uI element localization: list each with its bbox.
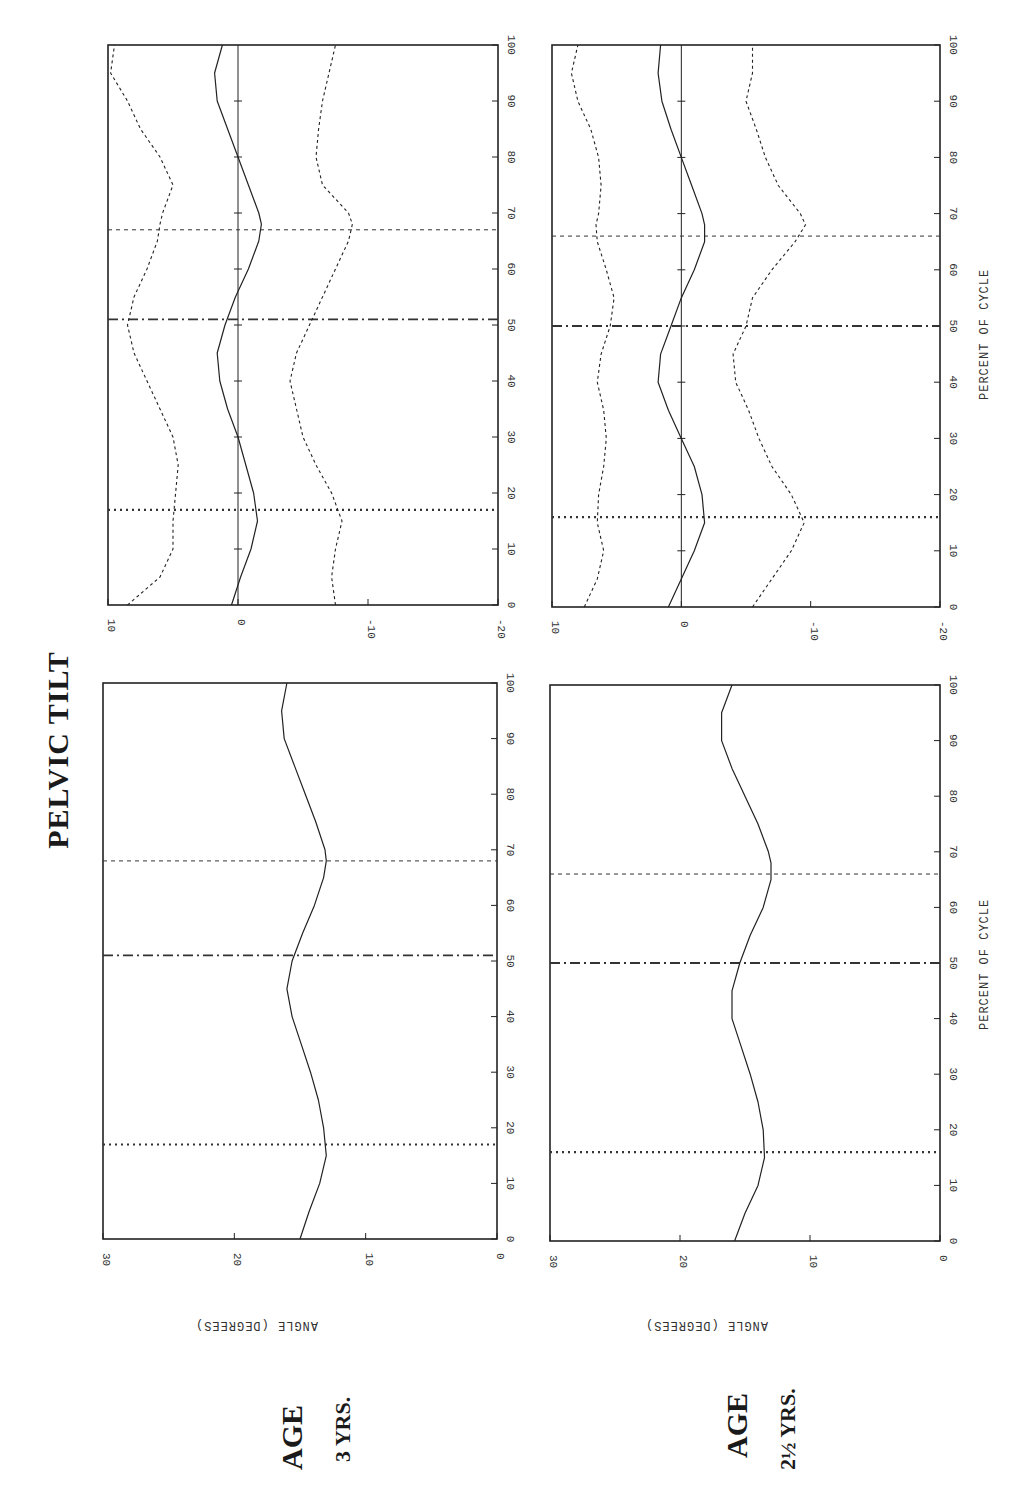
svg-text:40: 40 [947,1012,959,1025]
age-value: 3 YRS. [330,1397,356,1462]
svg-text:20: 20 [504,1121,516,1134]
svg-text:60: 60 [947,901,959,914]
svg-text:20: 20 [677,1255,689,1268]
svg-text:70: 70 [504,843,516,856]
svg-text:60: 60 [505,262,517,275]
y-axis-label-right: ANGLE (DEGREES) [645,1318,768,1332]
svg-text:50: 50 [504,954,516,967]
y-axis-label-left: ANGLE (DEGREES) [195,1318,318,1332]
svg-text:40: 40 [504,1010,516,1023]
svg-text:50: 50 [505,318,517,331]
svg-text:0: 0 [947,604,959,611]
svg-text:30: 30 [947,1068,959,1081]
svg-text:0: 0 [678,621,690,628]
svg-text:0: 0 [504,1236,516,1243]
svg-text:0: 0 [937,1255,949,1262]
svg-text:90: 90 [947,734,959,747]
age-word: AGE [720,1393,754,1458]
svg-text:60: 60 [947,263,959,276]
svg-text:10: 10 [549,621,561,634]
svg-text:50: 50 [947,319,959,332]
chart-age3-deviation: 0102030405060708090100-20-10010 [108,45,498,605]
svg-text:100: 100 [505,35,517,55]
svg-text:10: 10 [504,1177,516,1190]
svg-text:100: 100 [947,675,959,695]
svg-text:30: 30 [505,430,517,443]
svg-text:0: 0 [494,1253,506,1260]
svg-text:40: 40 [505,374,517,387]
svg-text:30: 30 [947,432,959,445]
svg-text:10: 10 [363,1253,375,1266]
svg-text:20: 20 [505,486,517,499]
svg-text:10: 10 [807,1255,819,1268]
svg-text:70: 70 [947,207,959,220]
svg-text:70: 70 [505,206,517,219]
x-axis-label-bottom: PERCENT OF CYCLE [978,899,992,1030]
svg-text:20: 20 [231,1253,243,1266]
svg-text:10: 10 [947,1179,959,1192]
svg-text:10: 10 [505,542,517,555]
age-value: 2½ YRS. [775,1388,801,1470]
svg-text:30: 30 [504,1066,516,1079]
page-title: PELVIC TILT [28,645,88,855]
svg-text:80: 80 [505,150,517,163]
svg-text:30: 30 [547,1255,559,1268]
chart-age3-absolute: 01020304050607080901000102030 [103,683,497,1239]
age-word: AGE [275,1405,309,1470]
svg-text:-10: -10 [808,621,820,641]
svg-text:0: 0 [947,1238,959,1245]
svg-text:0: 0 [235,619,247,626]
x-axis-label-top: PERCENT OF CYCLE [978,269,992,400]
svg-text:90: 90 [505,94,517,107]
svg-text:-20: -20 [495,619,507,639]
page-title-text: PELVIC TILT [41,651,75,849]
svg-text:20: 20 [947,488,959,501]
svg-text:100: 100 [504,673,516,693]
svg-text:60: 60 [504,899,516,912]
svg-text:80: 80 [504,788,516,801]
svg-text:80: 80 [947,790,959,803]
chart-age2half-deviation: 0102030405060708090100-20-10010 [552,45,940,607]
svg-text:10: 10 [947,544,959,557]
svg-text:80: 80 [947,151,959,164]
svg-text:10: 10 [105,619,117,632]
svg-text:30: 30 [100,1253,112,1266]
svg-text:-10: -10 [365,619,377,639]
svg-text:70: 70 [947,845,959,858]
chart-age2half-absolute: 01020304050607080901000102030 [550,685,940,1241]
svg-text:90: 90 [947,95,959,108]
svg-text:20: 20 [947,1123,959,1136]
svg-text:50: 50 [947,956,959,969]
svg-text:-20: -20 [937,621,949,641]
svg-text:90: 90 [504,732,516,745]
svg-text:0: 0 [505,602,517,609]
svg-text:40: 40 [947,376,959,389]
svg-text:100: 100 [947,35,959,55]
